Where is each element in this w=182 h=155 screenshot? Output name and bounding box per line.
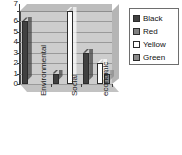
legend-item[interactable]: Red	[133, 25, 176, 38]
yellow-swatch	[133, 41, 140, 48]
x-tick-mark	[81, 84, 82, 87]
legend-item-label: Green	[143, 53, 165, 62]
legend-item[interactable]: Black	[133, 12, 176, 25]
legend-item[interactable]: Yellow	[133, 38, 176, 51]
x-tick-label: Environmental	[39, 45, 48, 96]
x-tick-mark	[51, 84, 52, 87]
green-swatch	[133, 54, 140, 61]
red-swatch	[133, 28, 140, 35]
x-tick-label: Social	[70, 74, 79, 96]
legend-item[interactable]: Green	[133, 51, 176, 64]
x-tick-label: economic	[101, 62, 110, 96]
bar-chart: 01234567 EnvironmentalSocialeconomic Bla…	[0, 0, 182, 155]
legend: BlackRedYellowGreen	[129, 8, 179, 65]
black-swatch	[133, 15, 140, 22]
legend-item-label: Red	[143, 27, 158, 36]
x-tick-mark	[112, 84, 113, 87]
legend-item-label: Yellow	[143, 40, 166, 49]
legend-item-label: Black	[143, 14, 163, 23]
